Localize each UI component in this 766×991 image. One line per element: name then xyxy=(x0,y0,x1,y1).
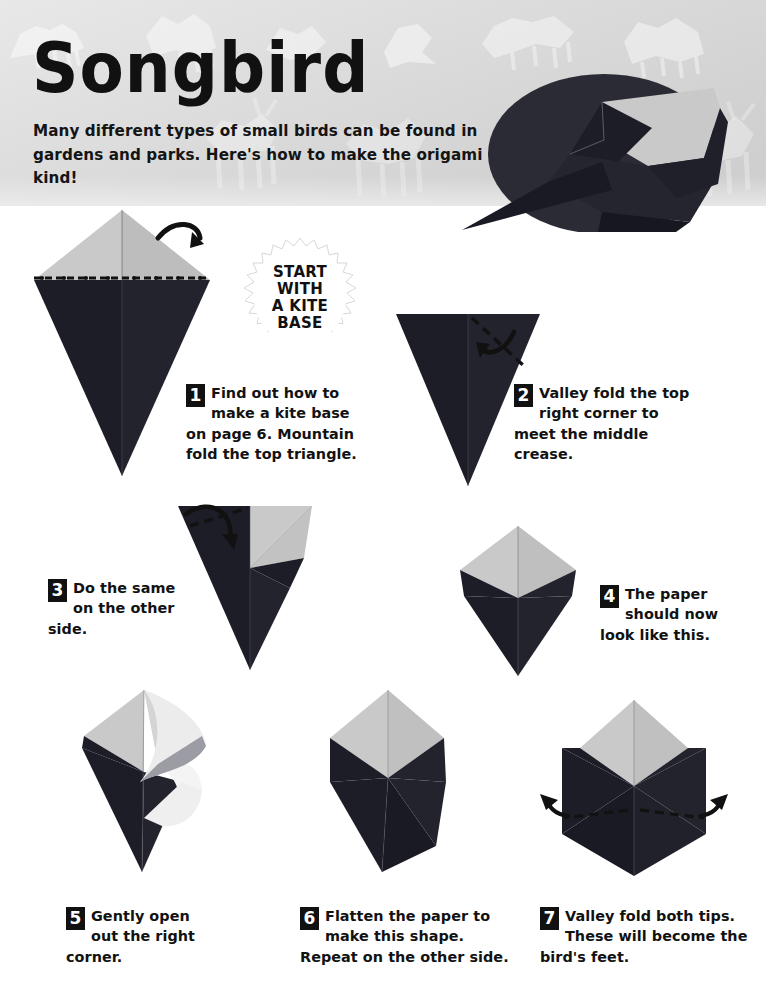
step-2-number: 2 xyxy=(514,384,533,407)
badge-text-block: START WITH A KITE BASE xyxy=(238,236,362,360)
step-5-instruction: Gently open out the right corner. xyxy=(66,908,195,965)
mountain-fold-line xyxy=(34,276,210,280)
step-3-text-block: 3 Do the same on the other side. xyxy=(48,578,184,639)
badge-line-1: START xyxy=(273,264,327,281)
origami-bird-silhouette xyxy=(378,18,442,74)
origami-instruction-page: Songbird Many different types of small b… xyxy=(0,0,766,991)
badge-line-4: BASE xyxy=(277,315,322,332)
start-with-kite-base-badge: START WITH A KITE BASE xyxy=(238,236,362,360)
step-2-text-block: 2 Valley fold the top right corner to me… xyxy=(514,383,694,465)
step-3-instruction: Do the same on the other side. xyxy=(48,580,175,637)
step-1-text-block: 1 Find out how to make a kite base on pa… xyxy=(186,383,362,465)
page-intro-paragraph: Many different types of small birds can … xyxy=(33,120,503,191)
step-3-number: 3 xyxy=(48,579,67,602)
finished-songbird-photo xyxy=(452,62,752,232)
badge-line-3: A KITE xyxy=(272,298,328,315)
step-7-instruction: Valley fold both tips. These will become… xyxy=(540,908,747,965)
page-title: Songbird xyxy=(32,34,369,103)
step-1-number: 1 xyxy=(186,384,205,407)
step-5-number: 5 xyxy=(66,907,85,930)
step-1-instruction: Find out how to make a kite base on page… xyxy=(186,385,357,462)
step-5-diagram xyxy=(62,686,242,878)
badge-line-2: WITH xyxy=(277,281,323,298)
step-4-text-block: 4 The paper should now look like this. xyxy=(600,584,750,645)
step-7-number: 7 xyxy=(540,907,559,930)
step-4-number: 4 xyxy=(600,585,619,608)
step-6-number: 6 xyxy=(300,907,319,930)
step-2-instruction: Valley fold the top right corner to meet… xyxy=(514,385,689,462)
step-7-diagram xyxy=(528,686,742,882)
step-3-diagram xyxy=(172,492,332,676)
step-6-diagram xyxy=(304,686,472,878)
step-6-text-block: 6 Flatten the paper to make this shape. … xyxy=(300,906,516,967)
step-4-diagram xyxy=(444,524,592,680)
step-5-text-block: 5 Gently open out the right corner. xyxy=(66,906,216,967)
step-7-text-block: 7 Valley fold both tips. These will beco… xyxy=(540,906,754,967)
step-6-instruction: Flatten the paper to make this shape. Re… xyxy=(300,908,509,965)
